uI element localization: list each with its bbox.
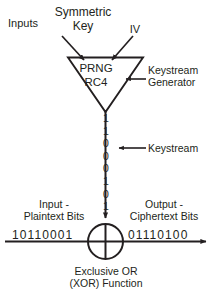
keystream-bit: 0 bbox=[103, 137, 115, 150]
keystream-bit: 0 bbox=[103, 162, 115, 175]
keystream-bit: 0 bbox=[103, 188, 115, 201]
keystream-bit: 1 bbox=[103, 112, 115, 125]
iv-arrow bbox=[112, 36, 133, 60]
keystream-bit: 1 bbox=[103, 175, 115, 188]
keystream-bit: 0 bbox=[103, 150, 115, 163]
inputs-label: Inputs bbox=[8, 17, 38, 30]
keystream-generator-label: Keystream Generator bbox=[148, 64, 198, 89]
rc4-label: RC4 bbox=[72, 76, 120, 90]
keystream-label: Keystream bbox=[148, 142, 198, 154]
symmetric-key-label: Symmetric Key bbox=[52, 5, 114, 33]
symmetric-key-arrow bbox=[62, 36, 84, 60]
keystream-bit: 1 bbox=[103, 200, 115, 213]
keystream-bit: 1 bbox=[103, 125, 115, 138]
keystream-bit-column: 11000101 bbox=[103, 112, 115, 213]
stream-cipher-diagram: Inputs Symmetric Key IV PRNG RC4 Keystre… bbox=[0, 0, 211, 301]
plaintext-bits: 10110001 bbox=[12, 228, 73, 242]
xor-function-caption: Exclusive OR (XOR) Function bbox=[46, 265, 166, 290]
output-ciphertext-label: Output - Ciphertext Bits bbox=[117, 198, 211, 223]
input-plaintext-label: Input - Plaintext Bits bbox=[6, 198, 102, 223]
iv-label: IV bbox=[125, 23, 145, 36]
ciphertext-bits: 01110100 bbox=[128, 228, 188, 242]
prng-label: PRNG bbox=[72, 62, 120, 76]
